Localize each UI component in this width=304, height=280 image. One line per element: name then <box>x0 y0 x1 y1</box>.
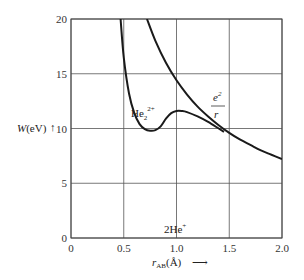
y-tick-label: 15 <box>56 68 68 80</box>
x-tick-label: 0 <box>68 242 74 254</box>
energy-curve-chart: 00.51.01.52.005101520 e2 r He22+ 2He+ W(… <box>0 0 304 280</box>
e2r-numerator: e2 <box>213 90 222 103</box>
y-tick-label: 0 <box>62 232 68 244</box>
y-tick-label: 20 <box>56 13 68 25</box>
annotation-e2-over-r: e2 r <box>211 90 225 120</box>
y-axis-title: W(eV) <box>17 122 47 135</box>
grid <box>71 19 282 238</box>
e2r-denominator: r <box>214 108 219 120</box>
x-axis-label: rAB(Å) ⟶ <box>152 256 208 270</box>
x-tick-label: 0.5 <box>117 242 131 254</box>
x-tick-label: 1.5 <box>222 242 236 254</box>
curves <box>121 19 282 159</box>
annotation-2he: 2He+ <box>164 222 186 235</box>
y-arrow-icon: ↑ <box>50 121 56 133</box>
tick-labels: 00.51.01.52.005101520 <box>56 13 289 254</box>
x-axis-title: rAB(Å) <box>152 256 182 270</box>
y-tick-label: 5 <box>62 177 68 189</box>
x-arrow-icon: ⟶ <box>192 256 208 268</box>
annotation-he2: He22+ <box>131 105 155 122</box>
y-tick-label: 10 <box>56 123 68 135</box>
coulomb-curve <box>147 19 282 159</box>
y-axis-label: W(eV) ↑ <box>17 121 56 135</box>
he2-label: He22+ <box>131 105 155 122</box>
x-tick-label: 1.0 <box>170 242 184 254</box>
2he-label: 2He+ <box>164 222 186 235</box>
x-tick-label: 2.0 <box>275 242 289 254</box>
